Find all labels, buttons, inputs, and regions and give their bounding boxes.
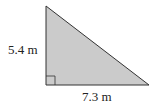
triangle-diagram: 5.4 m 7.3 m	[0, 0, 155, 106]
horizontal-side-label: 7.3 m	[82, 89, 112, 104]
vertical-side-label: 5.4 m	[8, 42, 38, 57]
right-triangle	[46, 6, 149, 85]
